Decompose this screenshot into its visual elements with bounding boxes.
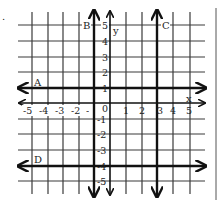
line-label-c: C (162, 20, 170, 31)
svg-text:-1: -1 (97, 114, 106, 125)
svg-text:5: 5 (102, 20, 108, 31)
svg-text:5: 5 (186, 105, 192, 116)
svg-text:-5: -5 (23, 105, 32, 116)
svg-text:-4: -4 (39, 105, 48, 116)
origin-label: 0 (102, 103, 108, 114)
svg-text:1: 1 (123, 105, 129, 116)
problem-marker: . (2, 11, 5, 22)
y-axis-label: y (112, 25, 119, 36)
x-axis-label: x (186, 93, 192, 104)
svg-text:4: 4 (170, 105, 176, 116)
svg-text:4: 4 (102, 36, 108, 47)
svg-text:-2: -2 (97, 129, 106, 140)
line-label-b: B (83, 20, 90, 31)
svg-text:-3: -3 (97, 145, 106, 156)
svg-text:-4: -4 (97, 161, 106, 172)
svg-text:-5: -5 (97, 176, 106, 187)
svg-text:-2: -2 (71, 105, 80, 116)
svg-text:1: 1 (102, 83, 108, 94)
svg-text:3: 3 (102, 52, 108, 63)
line-label-a: A (33, 77, 42, 88)
coordinate-plane: . B C A D y x 0 -5 (0, 0, 223, 207)
line-label-d: D (34, 154, 42, 165)
svg-text:3: 3 (157, 105, 163, 116)
svg-text:-3: -3 (55, 105, 64, 116)
svg-text:2: 2 (102, 67, 108, 78)
svg-text:2: 2 (139, 105, 145, 116)
